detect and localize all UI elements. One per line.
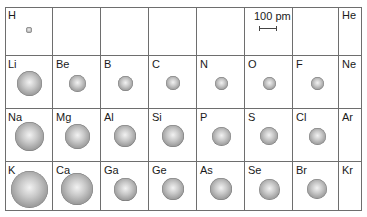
element-cell-na: Na: [5, 109, 53, 162]
element-cell-he: He: [339, 7, 362, 56]
atom-sphere-icon: [15, 122, 44, 151]
atom-sphere-icon: [114, 125, 136, 147]
atom-sphere-icon: [162, 178, 184, 200]
atom-sphere-icon: [210, 178, 232, 200]
scale-label: 100 pm: [254, 10, 291, 22]
element-symbol: S: [248, 111, 255, 123]
element-symbol: P: [200, 111, 207, 123]
atom-sphere-icon: [212, 127, 231, 146]
element-symbol: C: [152, 58, 160, 70]
element-cell-ne: Ne: [339, 56, 362, 109]
element-cell-s: S: [245, 109, 293, 162]
element-symbol: Mg: [56, 111, 71, 123]
element-cell-p: P: [197, 109, 245, 162]
atom-sphere-icon: [11, 171, 48, 208]
element-cell-ge: Ge: [149, 162, 197, 211]
empty-cell: [101, 7, 149, 56]
atom-sphere-icon: [259, 179, 280, 200]
element-symbol: Ne: [342, 58, 356, 70]
element-symbol: Se: [248, 164, 261, 176]
element-symbol: F: [296, 58, 303, 70]
element-symbol: As: [200, 164, 213, 176]
element-cell-li: Li: [5, 56, 53, 109]
element-cell-kr: Kr: [339, 162, 362, 211]
atom-sphere-icon: [215, 77, 228, 90]
element-symbol: Kr: [342, 164, 353, 176]
atom-sphere-icon: [162, 125, 184, 147]
element-cell-n: N: [197, 56, 245, 109]
element-cell-al: Al: [101, 109, 149, 162]
element-cell-ga: Ga: [101, 162, 149, 211]
empty-cell: [53, 7, 101, 56]
element-symbol: Ar: [342, 111, 353, 123]
scale-bar-icon: [259, 28, 277, 29]
element-symbol: Na: [8, 111, 22, 123]
atom-sphere-icon: [307, 179, 327, 199]
element-cell-se: Se: [245, 162, 293, 211]
element-cell-be: Be: [53, 56, 101, 109]
scale-tick: [276, 26, 277, 31]
element-symbol: Cl: [296, 111, 306, 123]
element-symbol: K: [8, 164, 15, 176]
element-symbol: Li: [8, 58, 17, 70]
element-cell-h: H: [5, 7, 53, 56]
element-cell-o: O: [245, 56, 293, 109]
periodic-table-grid: H100 pmHeLiBeBCNOFNeNaMgAlSiPSClArKCaGaG…: [5, 7, 362, 211]
element-symbol: Si: [152, 111, 162, 123]
element-symbol: Br: [296, 164, 307, 176]
element-cell-k: K: [5, 162, 53, 211]
atom-sphere-icon: [61, 173, 93, 205]
empty-cell: [149, 7, 197, 56]
element-symbol: H: [8, 9, 16, 21]
element-cell-b: B: [101, 56, 149, 109]
empty-cell: 100 pm: [245, 7, 293, 56]
atom-sphere-icon: [118, 76, 133, 91]
element-cell-si: Si: [149, 109, 197, 162]
element-symbol: Be: [56, 58, 69, 70]
element-symbol: Ge: [152, 164, 167, 176]
element-cell-br: Br: [293, 162, 339, 211]
atom-sphere-icon: [17, 71, 42, 96]
element-cell-ca: Ca: [53, 162, 101, 211]
atom-sphere-icon: [311, 77, 324, 90]
element-symbol: N: [200, 58, 208, 70]
atom-sphere-icon: [260, 127, 278, 145]
element-symbol: He: [342, 9, 356, 21]
element-symbol: Ga: [104, 164, 119, 176]
atom-sphere-icon: [166, 76, 180, 90]
atom-sphere-icon: [309, 128, 326, 145]
element-symbol: Al: [104, 111, 114, 123]
atom-sphere-icon: [69, 75, 86, 92]
empty-cell: [293, 7, 339, 56]
empty-cell: [197, 7, 245, 56]
scale-tick: [259, 26, 260, 31]
element-symbol: B: [104, 58, 111, 70]
element-cell-f: F: [293, 56, 339, 109]
element-cell-cl: Cl: [293, 109, 339, 162]
atom-sphere-icon: [263, 77, 276, 90]
atom-sphere-icon: [65, 124, 90, 149]
element-cell-mg: Mg: [53, 109, 101, 162]
element-cell-as: As: [197, 162, 245, 211]
element-cell-ar: Ar: [339, 109, 362, 162]
element-cell-c: C: [149, 56, 197, 109]
element-symbol: O: [248, 58, 257, 70]
atom-sphere-icon: [114, 178, 137, 201]
atom-sphere-icon: [26, 27, 32, 33]
